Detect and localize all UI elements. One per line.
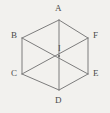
edge-ab	[22, 20, 59, 38]
vertex-label-f: F	[93, 31, 98, 40]
hexagon-figure: A B C D E F I	[0, 0, 110, 113]
hexagon-outline	[22, 20, 88, 90]
vertex-label-c: C	[11, 69, 17, 78]
center-point-marker	[58, 55, 60, 57]
vertex-label-b: B	[11, 31, 17, 40]
edge-cd	[22, 74, 59, 90]
vertex-label-e: E	[93, 69, 99, 78]
center-point-label: I	[58, 44, 61, 53]
vertex-label-a: A	[55, 4, 62, 13]
vertex-label-d: D	[55, 96, 62, 105]
edge-fa	[59, 20, 88, 38]
edge-de	[59, 74, 88, 90]
